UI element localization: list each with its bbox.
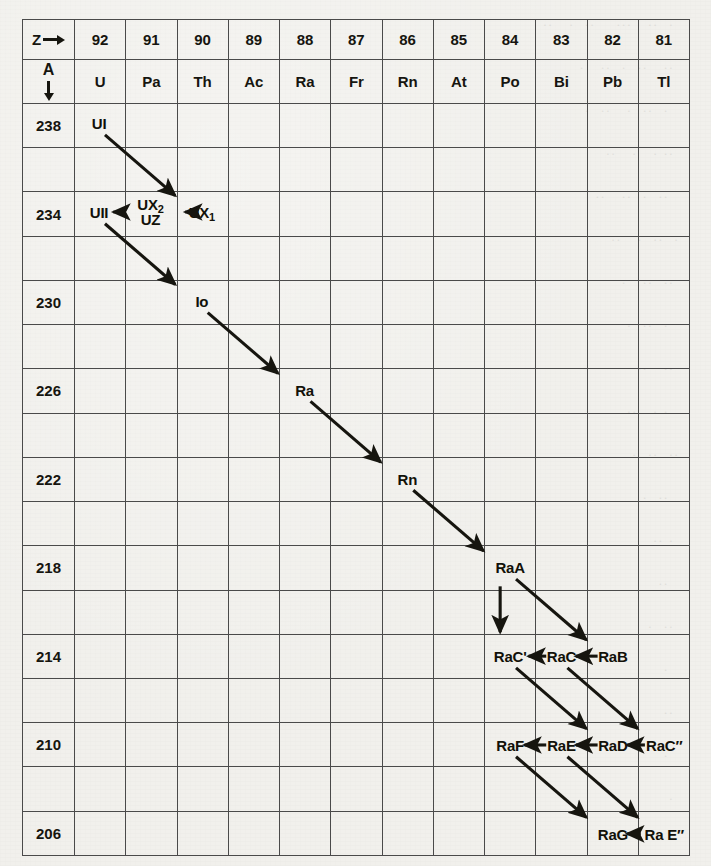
nuclide-cell xyxy=(331,103,382,147)
nuclide-cell xyxy=(382,325,433,369)
mass-number-label: 222 xyxy=(23,457,75,501)
nuclide-cell xyxy=(433,679,484,723)
nuclide-cell xyxy=(75,369,126,413)
mass-number-label xyxy=(23,413,75,457)
nuclide-cell xyxy=(75,590,126,634)
table-row xyxy=(23,236,690,280)
atomic-number-header-81: 81 xyxy=(638,20,689,60)
nuclide-cell xyxy=(280,457,331,501)
nuclide-cell xyxy=(382,457,433,501)
nuclide-cell xyxy=(126,148,177,192)
nuclide-cell xyxy=(75,767,126,811)
nuclide-cell xyxy=(536,546,587,590)
nuclide-cell xyxy=(638,502,689,546)
nuclide-cell xyxy=(536,236,587,280)
nuclide-cell xyxy=(536,634,587,678)
nuclide-cell xyxy=(587,723,638,767)
nuclide-cell xyxy=(485,767,536,811)
nuclide-cell xyxy=(126,369,177,413)
nuclide-cell xyxy=(331,811,382,855)
nuclide-cell xyxy=(280,236,331,280)
mass-number-label: 210 xyxy=(23,723,75,767)
nuclide-cell xyxy=(126,767,177,811)
nuclide-cell xyxy=(75,280,126,324)
nuclide-cell xyxy=(536,767,587,811)
nuclide-cell xyxy=(587,280,638,324)
nuclide-cell xyxy=(638,325,689,369)
nuclide-cell xyxy=(331,679,382,723)
nuclide-cell xyxy=(587,325,638,369)
nuclide-cell xyxy=(382,502,433,546)
nuclide-cell xyxy=(228,280,279,324)
nuclide-cell xyxy=(485,590,536,634)
nuclide-cell xyxy=(638,413,689,457)
nuclide-cell xyxy=(485,413,536,457)
nuclide-cell xyxy=(228,679,279,723)
atomic-number-header-88: 88 xyxy=(280,20,331,60)
nuclide-cell xyxy=(177,148,228,192)
nuclide-cell xyxy=(126,457,177,501)
element-symbol-header-Po: Po xyxy=(485,59,536,103)
nuclide-cell xyxy=(126,280,177,324)
nuclide-cell xyxy=(433,502,484,546)
nuclide-cell xyxy=(587,369,638,413)
atomic-number-header-82: 82 xyxy=(587,20,638,60)
element-symbol-header-Tl: Tl xyxy=(638,59,689,103)
nuclide-cell xyxy=(126,723,177,767)
table-row: 206 xyxy=(23,811,690,855)
nuclide-cell xyxy=(177,767,228,811)
nuclide-cell xyxy=(536,590,587,634)
nuclide-cell xyxy=(75,103,126,147)
nuclide-cell xyxy=(280,369,331,413)
nuclide-cell xyxy=(485,457,536,501)
nuclide-cell xyxy=(485,280,536,324)
nuclide-cell xyxy=(331,280,382,324)
atomic-number-header-92: 92 xyxy=(75,20,126,60)
nuclide-cell xyxy=(638,679,689,723)
nuclide-cell xyxy=(587,546,638,590)
nuclide-cell xyxy=(433,634,484,678)
nuclide-cell xyxy=(280,590,331,634)
nuclide-cell xyxy=(126,236,177,280)
table-row: 214 xyxy=(23,634,690,678)
nuclide-cell xyxy=(536,192,587,236)
nuclide-cell xyxy=(382,634,433,678)
nuclide-cell xyxy=(126,192,177,236)
nuclide-cell xyxy=(382,148,433,192)
nuclide-cell xyxy=(331,148,382,192)
mass-number-label: 206 xyxy=(23,811,75,855)
nuclide-cell xyxy=(75,236,126,280)
nuclide-cell xyxy=(280,634,331,678)
nuclide-cell xyxy=(177,457,228,501)
nuclide-cell xyxy=(587,590,638,634)
decay-chart-page: . .. ... .. . .. .. .. . .. . . .. . .. … xyxy=(0,0,711,866)
nuclide-cell xyxy=(536,811,587,855)
nuclide-cell xyxy=(126,325,177,369)
nuclide-cell xyxy=(382,590,433,634)
nuclide-cell xyxy=(126,103,177,147)
table-row xyxy=(23,325,690,369)
nuclide-cell xyxy=(638,103,689,147)
atomic-number-header-91: 91 xyxy=(126,20,177,60)
nuclide-cell xyxy=(228,502,279,546)
nuclide-cell xyxy=(587,236,638,280)
table-row xyxy=(23,590,690,634)
nuclide-cell xyxy=(536,413,587,457)
mass-number-label: 214 xyxy=(23,634,75,678)
table-row xyxy=(23,502,690,546)
decay-table-wrapper: Z929190898887868584838281AUPaThAcRaFrRnA… xyxy=(22,19,690,856)
nuclide-cell xyxy=(331,457,382,501)
nuclide-cell xyxy=(177,679,228,723)
right-arrow-icon xyxy=(43,34,65,44)
nuclide-cell xyxy=(280,811,331,855)
nuclide-cell xyxy=(382,767,433,811)
nuclide-cell xyxy=(485,723,536,767)
nuclide-cell xyxy=(177,103,228,147)
a-label: A xyxy=(43,62,55,78)
nuclide-cell xyxy=(177,413,228,457)
mass-number-label: 226 xyxy=(23,369,75,413)
nuclide-cell xyxy=(280,325,331,369)
nuclide-cell xyxy=(587,767,638,811)
nuclide-cell xyxy=(228,148,279,192)
nuclide-cell xyxy=(331,723,382,767)
